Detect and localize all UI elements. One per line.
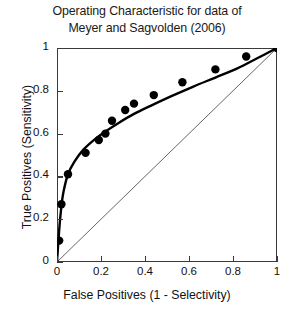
data-point-2 <box>64 170 72 178</box>
data-point-8 <box>130 99 138 107</box>
x-tick-3 <box>189 256 190 262</box>
data-point-1 <box>57 200 65 208</box>
chart-title-line-1: Operating Characteristic for data of <box>0 3 294 20</box>
x-tick-5 <box>277 256 278 262</box>
y-tick-3 <box>57 134 63 135</box>
chart-title: Operating Characteristic for data of Mey… <box>0 3 294 37</box>
data-point-9 <box>150 91 158 99</box>
x-tick-label-4: 0.8 <box>213 265 253 277</box>
y-tick-1 <box>57 219 63 220</box>
chance-diagonal-line <box>57 48 277 262</box>
data-point-0 <box>57 236 63 244</box>
y-tick-4 <box>57 91 63 92</box>
x-axis-title: False Positives (1 - Selectivity) <box>0 288 294 302</box>
x-tick-label-0: 0 <box>37 265 77 277</box>
data-point-5 <box>101 129 109 137</box>
data-point-7 <box>121 106 129 114</box>
roc-chart-figure: Operating Characteristic for data of Mey… <box>0 0 294 314</box>
x-tick-4 <box>233 256 234 262</box>
data-point-3 <box>81 149 89 157</box>
data-point-11 <box>211 65 219 73</box>
x-tick-1 <box>101 256 102 262</box>
y-tick-2 <box>57 176 63 177</box>
y-tick-0 <box>57 262 63 263</box>
data-point-4 <box>95 136 103 144</box>
data-point-12 <box>242 52 250 60</box>
x-tick-label-3: 0.6 <box>169 265 209 277</box>
data-point-10 <box>178 78 186 86</box>
data-point-6 <box>108 117 116 125</box>
y-tick-5 <box>57 48 63 49</box>
x-tick-label-5: 1 <box>257 265 294 277</box>
chart-title-line-2: Meyer and Sagvolden (2006) <box>0 20 294 37</box>
plot-canvas <box>57 48 277 262</box>
x-tick-label-2: 0.4 <box>125 265 165 277</box>
x-tick-label-1: 0.2 <box>81 265 121 277</box>
x-tick-2 <box>145 256 146 262</box>
y-axis-title: True Positives (Sensitivity) <box>20 42 34 272</box>
